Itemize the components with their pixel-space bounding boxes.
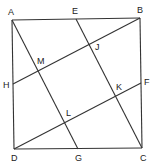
segment-DA: [12, 20, 14, 149]
label-H: H: [3, 80, 10, 90]
geometry-diagram: A E B H F M J L K D G C: [0, 0, 156, 165]
label-E: E: [72, 6, 78, 16]
label-A: A: [8, 7, 14, 17]
segment-AG: [12, 20, 78, 149]
label-K: K: [116, 82, 122, 92]
label-F: F: [144, 77, 150, 87]
segment-EC: [76, 19, 142, 148]
label-C: C: [140, 153, 147, 163]
label-J: J: [95, 42, 100, 52]
label-B: B: [137, 5, 143, 15]
segment-HB: [13, 18, 140, 84]
label-L: L: [66, 108, 71, 118]
label-G: G: [75, 153, 82, 163]
segment-DF: [14, 83, 141, 149]
label-D: D: [11, 153, 18, 163]
label-M: M: [37, 56, 45, 66]
